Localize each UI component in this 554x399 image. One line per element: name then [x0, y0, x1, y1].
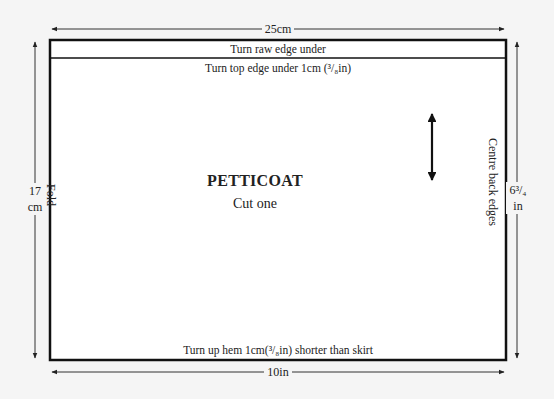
hem-instruction: Turn up hem 1cm(³/₈in) shorter than skir…: [52, 342, 504, 358]
width-cm-label: 25cm: [50, 20, 506, 38]
cut-instruction: Cut one: [190, 196, 320, 212]
fold-edge-label: Fold: [44, 184, 58, 206]
width-in-label: 10in: [50, 363, 506, 381]
top-edge-instruction: Turn top edge under 1cm (³/₈in): [52, 60, 504, 76]
height-in-value: 6³/₄: [506, 182, 530, 198]
centre-back-edge-label: Centre back edges: [486, 138, 500, 226]
pattern-title: PETTICOAT: [190, 172, 320, 190]
top-band-label: Turn raw edge under: [52, 41, 504, 57]
height-in-label: 6³/₄ in: [506, 182, 530, 214]
height-in-unit: in: [506, 198, 530, 214]
